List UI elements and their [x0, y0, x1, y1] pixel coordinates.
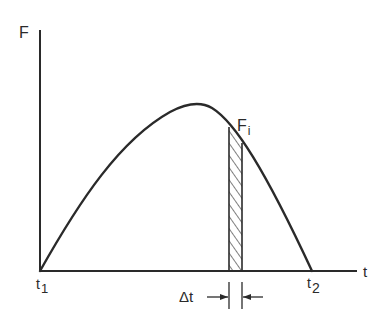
t1-label: t1 — [36, 276, 48, 296]
force-curve — [40, 104, 312, 271]
delta-t-label: Δt — [179, 288, 194, 305]
force-time-diagram: F t t1 t2 Fi Δt — [0, 0, 389, 333]
right-arrowhead — [243, 294, 251, 300]
t2-label: t2 — [307, 275, 320, 296]
delta-t-dimension: Δt — [179, 282, 263, 309]
left-arrowhead — [220, 294, 228, 300]
y-axis-label: F — [19, 24, 29, 41]
x-axis-label: t — [363, 263, 368, 280]
impulse-strip — [229, 120, 243, 272]
